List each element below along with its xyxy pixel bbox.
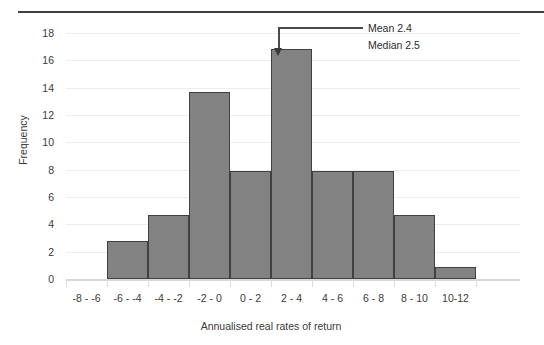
plot-area: 024681012141618 Frequency -8 - -6-6 - -4… xyxy=(0,0,544,345)
x-tick-label: 0 - 2 xyxy=(230,293,271,304)
x-tick-mark xyxy=(476,280,477,287)
x-tick-label: -2 - 0 xyxy=(189,293,230,304)
histogram-bar xyxy=(189,92,230,279)
y-tick-label: 10 xyxy=(30,137,54,148)
histogram-bar xyxy=(107,241,148,279)
y-tick-label: 12 xyxy=(30,110,54,121)
histogram-bar xyxy=(312,171,353,279)
x-tick-mark xyxy=(353,280,354,287)
histogram-bar xyxy=(271,49,312,279)
annotation-arrowhead-icon xyxy=(274,48,282,56)
x-tick-label: 2 - 4 xyxy=(271,293,312,304)
y-tick-label: 18 xyxy=(30,28,54,39)
histogram-bar xyxy=(435,267,476,279)
y-tick-label: 8 xyxy=(30,165,54,176)
x-tick-label: -8 - -6 xyxy=(66,293,107,304)
x-tick-mark xyxy=(107,280,108,287)
histogram-bar xyxy=(394,215,435,279)
annotation-leader-line-vertical xyxy=(278,27,280,50)
x-tick-mark xyxy=(312,280,313,287)
y-tick-label: 2 xyxy=(30,247,54,258)
x-tick-label: 6 - 8 xyxy=(353,293,394,304)
x-tick-label: 4 - 6 xyxy=(312,293,353,304)
histogram-bar xyxy=(353,171,394,279)
y-tick-label: 16 xyxy=(30,55,54,66)
annotation-mean-label: Mean 2.4 xyxy=(368,23,412,34)
y-tick-label: 6 xyxy=(30,192,54,203)
annotation-leader-line-horizontal xyxy=(278,27,363,29)
y-tick-label: 0 xyxy=(30,274,54,285)
x-tick-label: -4 - -2 xyxy=(148,293,189,304)
x-tick-label: -6 - -4 xyxy=(107,293,148,304)
y-tick-label: 14 xyxy=(30,83,54,94)
x-tick-mark xyxy=(189,280,190,287)
x-tick-label: 8 - 10 xyxy=(394,293,435,304)
y-tick-label: 4 xyxy=(30,219,54,230)
x-tick-mark xyxy=(435,280,436,287)
x-tick-mark xyxy=(271,280,272,287)
histogram-bar xyxy=(230,171,271,279)
x-tick-mark xyxy=(148,280,149,287)
x-axis-title: Annualised real rates of return xyxy=(66,320,476,332)
x-tick-label: 10-12 xyxy=(435,293,476,304)
annotation-median-label: Median 2.5 xyxy=(368,40,420,51)
y-axis-title: Frequency xyxy=(17,95,29,185)
x-tick-mark xyxy=(230,280,231,287)
histogram-bar xyxy=(148,215,189,279)
histogram-figure: 024681012141618 Frequency -8 - -6-6 - -4… xyxy=(0,0,544,345)
x-tick-mark xyxy=(394,280,395,287)
x-tick-mark xyxy=(66,280,67,287)
